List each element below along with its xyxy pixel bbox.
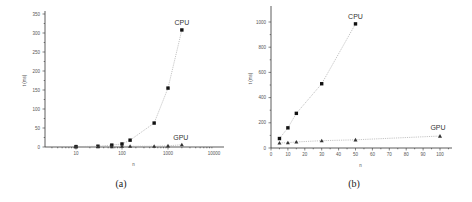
chart-a: 05010015020025030035010100100010000nt (m… [22, 11, 224, 167]
y-tick-label: 0 [37, 145, 40, 150]
y-tick-label: 100 [32, 107, 40, 112]
y-tick-label: 200 [258, 120, 266, 125]
x-tick-label: 100 [118, 151, 126, 156]
series-label-gpu: GPU [430, 124, 445, 131]
data-point-cpu [180, 28, 183, 31]
x-tick-label: 10 [285, 152, 291, 157]
series-line-gpu [76, 145, 182, 147]
x-tick-label: 100 [436, 152, 444, 157]
y-axis-label: t (ms) [248, 72, 253, 84]
x-tick-label: 90 [421, 152, 427, 157]
series-line-gpu [279, 136, 440, 143]
series-label-gpu: GPU [173, 134, 188, 141]
x-tick-label: 40 [336, 152, 342, 157]
data-point-cpu [320, 82, 323, 85]
data-point-cpu [295, 112, 298, 115]
series-line-cpu [76, 30, 182, 147]
y-tick-label: 350 [32, 12, 40, 17]
data-point-cpu [166, 86, 169, 89]
x-tick-label: 60 [370, 152, 376, 157]
x-tick-label: 10 [73, 151, 79, 156]
x-tick-label: 30 [319, 152, 325, 157]
y-tick-label: 250 [32, 50, 40, 55]
chart-b: 020040060080010000102030405060708090100n… [248, 6, 452, 168]
x-axis-label: n [132, 162, 135, 167]
caption-b: (b) [348, 178, 360, 190]
data-point-gpu [320, 139, 324, 143]
y-tick-label: 800 [258, 45, 266, 50]
x-axis-label: n [359, 163, 362, 168]
y-tick-label: 600 [258, 70, 266, 75]
data-point-cpu [286, 126, 289, 129]
y-tick-label: 200 [32, 69, 40, 74]
data-point-cpu [128, 138, 131, 141]
y-axis-label: t (ms) [22, 74, 27, 86]
y-tick-label: 1000 [256, 20, 267, 25]
caption-a: (a) [115, 178, 126, 190]
x-tick-label: 80 [404, 152, 410, 157]
series-label-cpu: CPU [174, 19, 189, 26]
series-label-cpu: CPU [348, 13, 363, 20]
x-tick-label: 20 [302, 152, 308, 157]
x-tick-label: 0 [270, 152, 273, 157]
y-tick-label: 400 [258, 95, 266, 100]
y-tick-label: 50 [35, 126, 41, 131]
x-tick-label: 1000 [163, 151, 174, 156]
series-line-cpu [279, 24, 355, 139]
x-tick-label: 50 [353, 152, 359, 157]
y-tick-label: 0 [263, 146, 266, 151]
data-point-gpu [277, 141, 281, 145]
y-tick-label: 150 [32, 88, 40, 93]
figure: 05010015020025030035010100100010000nt (m… [0, 0, 472, 202]
y-tick-label: 300 [32, 31, 40, 36]
data-point-cpu [152, 121, 155, 124]
x-tick-label: 70 [387, 152, 393, 157]
data-point-cpu [354, 22, 357, 25]
x-tick-label: 10000 [208, 151, 221, 156]
data-point-cpu [278, 137, 281, 140]
